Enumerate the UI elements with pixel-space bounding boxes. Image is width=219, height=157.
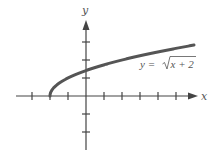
- x-axis-label: x: [201, 90, 208, 103]
- x-axis-arrow-icon: [188, 93, 198, 100]
- equation-lhs: y =: [139, 58, 155, 70]
- chart: x y y = x + 2: [0, 0, 219, 157]
- y-axis: [82, 20, 90, 150]
- equation-radicand: x + 2: [170, 58, 195, 70]
- equation-label: y = x + 2: [139, 57, 196, 71]
- curve-sqrt: [50, 45, 194, 96]
- x-axis: [16, 92, 198, 100]
- y-axis-arrow-icon: [83, 20, 90, 30]
- y-axis-label: y: [81, 4, 89, 17]
